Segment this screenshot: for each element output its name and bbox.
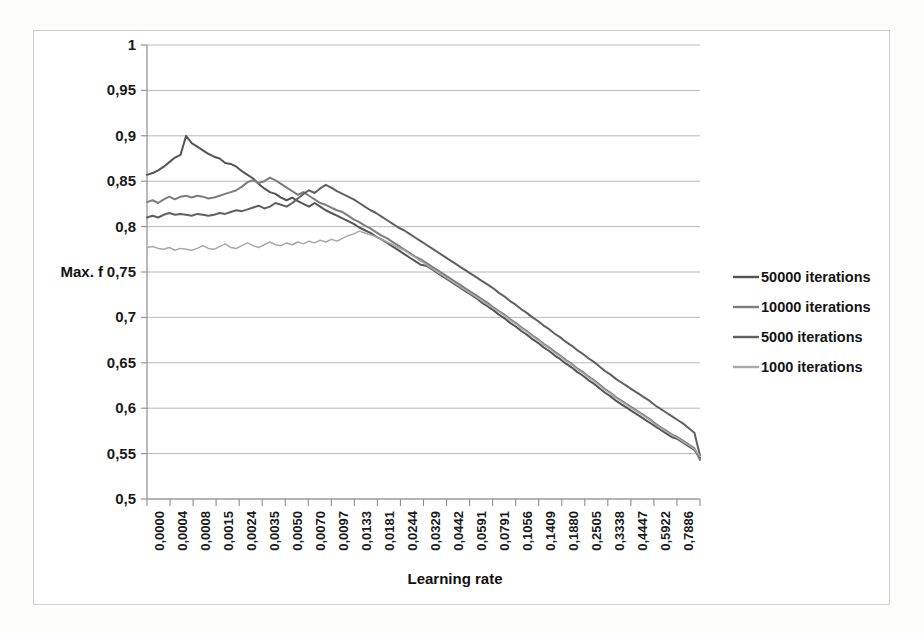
- legend-label: 1000 iterations: [761, 359, 863, 375]
- x-tick-label: 0,0244: [405, 510, 420, 551]
- x-axis-title: Learning rate: [407, 570, 502, 587]
- x-tick-label: 0,0004: [175, 510, 190, 551]
- series-lines: [147, 136, 700, 460]
- x-tick-label: 0,0097: [336, 511, 351, 551]
- x-tick-label: 0,0000: [152, 511, 167, 551]
- y-tick-label: 0,9: [115, 127, 136, 144]
- x-tick-label: 0,0329: [428, 511, 443, 551]
- x-tick-label: 0,0181: [382, 511, 397, 551]
- legend-label: 50000 iterations: [761, 269, 871, 285]
- y-tick-label: 1: [128, 36, 136, 53]
- x-tick-label: 0,1056: [520, 511, 535, 551]
- y-tick-label: 0,55: [107, 445, 136, 462]
- x-tick-label: 0,0024: [244, 510, 259, 551]
- x-tick-label: 0,1409: [543, 511, 558, 551]
- y-tick-label: 0,65: [107, 354, 136, 371]
- x-tick-label: 0,5922: [658, 511, 673, 551]
- x-tick-label: 0,3338: [612, 511, 627, 551]
- line-chart: 10,950,90,850,80,750,70,650,60,550,5 0,0…: [0, 0, 924, 633]
- x-axis: [147, 499, 700, 506]
- y-tick-label: 0,7: [115, 308, 136, 325]
- x-tick-label: 0,0035: [267, 511, 282, 551]
- x-tick-label: 0,0133: [359, 511, 374, 551]
- x-tick-label: 0,4447: [635, 511, 650, 551]
- y-tick-labels: 10,950,90,850,80,750,70,650,60,550,5: [107, 36, 136, 507]
- series-line-10000: [147, 178, 700, 460]
- gridlines: [147, 45, 700, 499]
- y-tick-label: 0,6: [115, 399, 136, 416]
- legend: 50000 iterations10000 iterations5000 ite…: [733, 269, 871, 375]
- chart-container: 10,950,90,850,80,750,70,650,60,550,5 0,0…: [0, 0, 924, 633]
- y-tick-label: 0,8: [115, 218, 136, 235]
- y-axis: [141, 45, 147, 499]
- y-tick-label: 0,5: [115, 490, 136, 507]
- x-tick-label: 0,0050: [290, 511, 305, 551]
- x-tick-label: 0,1880: [566, 511, 581, 551]
- y-tick-label: 0,75: [107, 263, 136, 280]
- y-axis-title: Max. f: [60, 263, 104, 280]
- x-tick-label: 0,7886: [681, 511, 696, 551]
- series-line-50000: [147, 136, 700, 458]
- legend-label: 5000 iterations: [761, 329, 863, 345]
- legend-label: 10000 iterations: [761, 299, 871, 315]
- x-tick-label: 0,0791: [497, 511, 512, 551]
- x-tick-label: 0,0070: [313, 511, 328, 551]
- series-line-5000: [147, 185, 700, 456]
- x-tick-label: 0,0442: [451, 511, 466, 551]
- x-tick-label: 0,2505: [589, 511, 604, 551]
- y-tick-label: 0,85: [107, 172, 136, 189]
- x-tick-label: 0,0591: [474, 511, 489, 551]
- x-tick-labels: 0,00000,00040,00080,00150,00240,00350,00…: [152, 510, 697, 551]
- x-tick-label: 0,0008: [198, 511, 213, 551]
- y-tick-label: 0,95: [107, 81, 136, 98]
- x-tick-label: 0,0015: [221, 511, 236, 551]
